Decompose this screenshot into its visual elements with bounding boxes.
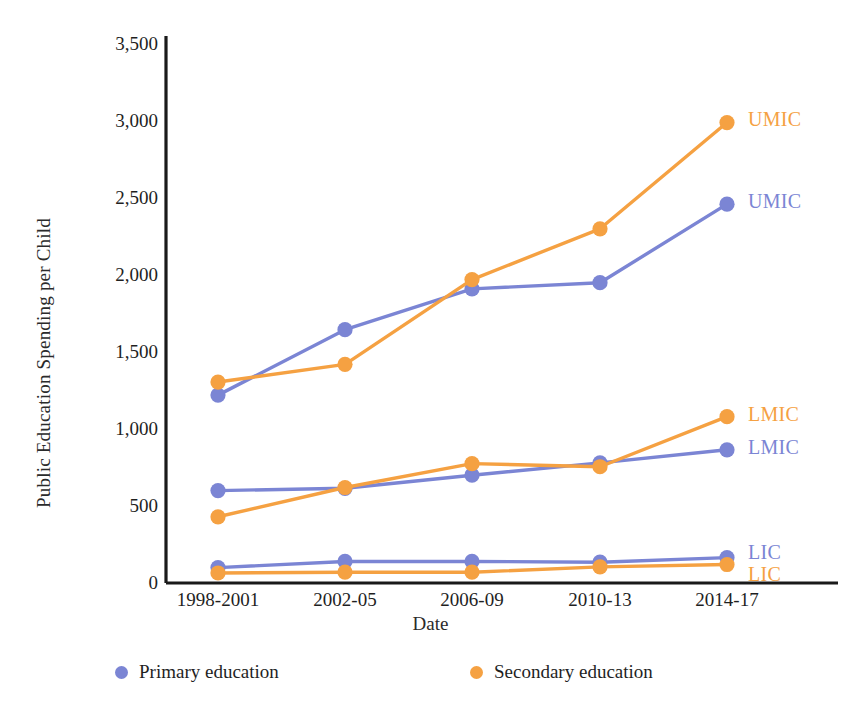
chart-container: Public Education Spending per Child 3,50… xyxy=(0,0,861,701)
data-point[interactable] xyxy=(464,272,479,287)
data-point[interactable] xyxy=(592,275,607,290)
data-point[interactable] xyxy=(719,409,734,424)
x-tick-label: 1998-2001 xyxy=(177,589,259,611)
data-point[interactable] xyxy=(592,221,607,236)
data-point[interactable] xyxy=(210,483,225,498)
legend-dot-secondary-icon xyxy=(470,666,483,679)
legend: Primary education Secondary education xyxy=(0,661,861,691)
legend-label-primary: Primary education xyxy=(139,661,279,683)
data-point[interactable] xyxy=(719,115,734,130)
series-line xyxy=(218,204,727,395)
series-end-label-lic-secondary: LIC xyxy=(748,563,781,586)
data-point[interactable] xyxy=(210,374,225,389)
data-point[interactable] xyxy=(337,357,352,372)
x-tick-label: 2006-09 xyxy=(440,589,503,611)
series-end-label-lmic-secondary: LMIC xyxy=(748,403,799,426)
x-tick-label: 2014-17 xyxy=(695,589,758,611)
series-end-label-lmic-primary: LMIC xyxy=(748,436,799,459)
data-point[interactable] xyxy=(719,442,734,457)
data-point[interactable] xyxy=(337,565,352,580)
series-end-label-umic-secondary: UMIC xyxy=(748,108,801,131)
data-point[interactable] xyxy=(210,565,225,580)
data-point[interactable] xyxy=(337,480,352,495)
series-end-label-lic-primary: LIC xyxy=(748,541,781,564)
data-point[interactable] xyxy=(210,509,225,524)
x-axis-title: Date xyxy=(0,613,861,635)
legend-item-secondary-education[interactable]: Secondary education xyxy=(470,661,653,683)
legend-dot-primary-icon xyxy=(115,666,128,679)
legend-item-primary-education[interactable]: Primary education xyxy=(115,661,279,683)
series-layer xyxy=(210,115,734,581)
data-point[interactable] xyxy=(592,559,607,574)
x-tick-label: 2002-05 xyxy=(313,589,376,611)
series-umic-secondary xyxy=(210,115,734,390)
series-end-label-umic-primary: UMIC xyxy=(748,190,801,213)
data-point[interactable] xyxy=(337,322,352,337)
data-point[interactable] xyxy=(210,388,225,403)
data-point[interactable] xyxy=(719,197,734,212)
data-point[interactable] xyxy=(464,565,479,580)
x-tick-label: 2010-13 xyxy=(568,589,631,611)
data-point[interactable] xyxy=(464,456,479,471)
data-point[interactable] xyxy=(592,459,607,474)
legend-label-secondary: Secondary education xyxy=(494,661,653,683)
data-point[interactable] xyxy=(719,557,734,572)
series-lmic-secondary xyxy=(210,409,734,524)
